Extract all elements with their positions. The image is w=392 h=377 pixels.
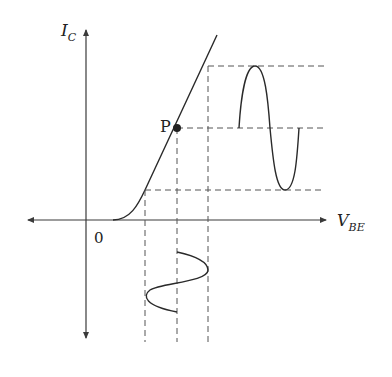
y-axis-label: IC xyxy=(60,20,77,44)
x-axis-label: VBE xyxy=(337,211,365,234)
point-label: P xyxy=(160,117,171,136)
origin-label: 0 xyxy=(94,229,104,247)
operating-point-dot xyxy=(173,124,181,132)
transistor-characteristic-diagram: P 0 IC VBE xyxy=(0,0,392,377)
